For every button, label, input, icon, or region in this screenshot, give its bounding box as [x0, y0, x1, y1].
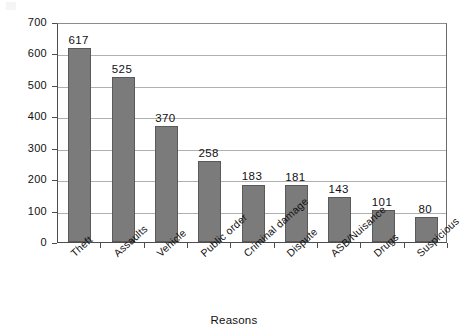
plot-area: [57, 23, 447, 243]
bar: [68, 48, 91, 242]
y-axis-tick-label: 400: [0, 111, 47, 122]
y-axis-tick-label: 100: [0, 206, 47, 217]
bar-chart-figure: Number of calls 0100200300400500600700 6…: [0, 0, 468, 335]
y-axis-tick-label: 0: [0, 237, 47, 248]
scan-artifact: [6, 2, 16, 10]
x-axis-tick: [447, 243, 448, 248]
x-axis-title: Reasons: [0, 314, 468, 327]
y-axis-tick-label: 600: [0, 48, 47, 59]
x-axis-tick: [187, 243, 188, 248]
bar-value-label: 370: [139, 112, 191, 124]
y-axis-tick-label: 700: [0, 17, 47, 28]
x-axis-tick: [404, 243, 405, 248]
bar-value-label: 143: [313, 183, 365, 195]
x-axis-tick: [230, 243, 231, 248]
y-axis-tick-label: 500: [0, 80, 47, 91]
x-axis-tick: [100, 243, 101, 248]
bar-value-label: 617: [53, 34, 105, 46]
bar: [155, 126, 178, 242]
x-axis-tick: [360, 243, 361, 248]
y-axis-tick-label: 200: [0, 174, 47, 185]
y-axis-tick: [52, 243, 57, 244]
bar: [198, 161, 221, 242]
y-axis-tick-label: 300: [0, 143, 47, 154]
x-axis-tick: [144, 243, 145, 248]
x-axis-tick: [317, 243, 318, 248]
bar-value-label: 80: [399, 203, 451, 215]
x-axis-tick: [274, 243, 275, 248]
bar: [112, 77, 135, 242]
bar-value-label: 181: [269, 171, 321, 183]
bar-value-label: 258: [183, 147, 235, 159]
gridline: [58, 55, 446, 56]
bar-value-label: 525: [96, 63, 148, 75]
